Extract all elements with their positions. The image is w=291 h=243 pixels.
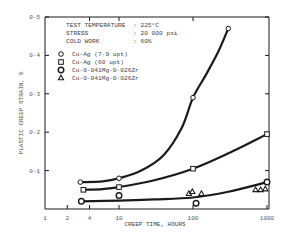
x-axis-ticks: 124101001000 xyxy=(43,17,274,222)
x-tick-label: 4 xyxy=(88,215,92,222)
test-conditions: TEST TEMPERATURE : 225°C STRESS : 20 000… xyxy=(66,22,178,45)
square-marker xyxy=(191,166,196,171)
y-tick-label: 0·1 xyxy=(29,168,40,175)
open-circle-marker xyxy=(264,179,270,185)
y-tick-label: 0·5 xyxy=(29,14,40,21)
legend: Cu-Ag (7·9 opt) Cu-Ag (60 opt) Cu-0·041M… xyxy=(58,51,139,82)
open-circle-marker xyxy=(193,200,199,206)
legend-triangle-icon xyxy=(58,75,63,80)
condition-coldwork-value: : 60% xyxy=(133,38,152,45)
square-marker xyxy=(117,185,122,190)
legend-label-cumgzr-circle: Cu-0·041Mg-0·026Zr xyxy=(72,67,139,74)
circle-marker xyxy=(117,176,122,181)
circle-marker xyxy=(191,95,196,100)
condition-temperature-value: : 225°C xyxy=(133,22,159,29)
x-axis-title: CREEP TIME, HOURS xyxy=(124,221,186,228)
legend-symbols xyxy=(58,52,64,80)
x-tick-label: 1 xyxy=(43,215,47,222)
legend-label-cuag-60: Cu-Ag (60 opt) xyxy=(72,59,124,66)
condition-stress-value: : 20 000 psi xyxy=(133,30,178,37)
condition-coldwork-label: COLD WORK xyxy=(66,38,100,45)
triangle-marker xyxy=(199,191,204,196)
square-marker xyxy=(81,188,86,193)
legend-label-cumgzr-triangle: Cu-0·041Mg-0·026Zr xyxy=(72,75,139,82)
fit-curve-2 xyxy=(81,182,267,201)
circle-marker xyxy=(226,26,231,31)
triangle-marker xyxy=(190,189,195,194)
open-circle-marker xyxy=(116,193,122,199)
y-axis-title: PLASTIC CREEP STRAIN, % xyxy=(18,71,25,154)
x-tick-label: 10 xyxy=(115,215,123,222)
y-tick-label: 0·2 xyxy=(29,129,40,136)
x-tick-label: 100 xyxy=(188,215,199,222)
legend-square-icon xyxy=(59,60,64,65)
y-tick-label: 0·4 xyxy=(29,52,40,59)
circle-marker xyxy=(78,180,83,185)
condition-temperature-label: TEST TEMPERATURE xyxy=(66,22,126,29)
creep-strain-chart: 0·10·20·30·40·5 124101001000 TEST TEMPER… xyxy=(0,0,291,243)
condition-stress-label: STRESS xyxy=(66,30,89,37)
y-tick-label: 0·3 xyxy=(29,91,40,98)
triangle-marker xyxy=(263,186,268,191)
triangle-marker xyxy=(253,187,258,192)
legend-label-cuag-7-9: Cu-Ag (7·9 opt) xyxy=(72,51,128,58)
x-tick-label: 2 xyxy=(65,215,69,222)
square-marker xyxy=(265,132,270,137)
fit-curve-1 xyxy=(83,134,267,190)
legend-circle-icon xyxy=(59,52,64,57)
legend-open-circle-icon xyxy=(58,67,64,73)
x-tick-label: 1000 xyxy=(260,215,275,222)
open-circle-marker xyxy=(79,199,85,205)
